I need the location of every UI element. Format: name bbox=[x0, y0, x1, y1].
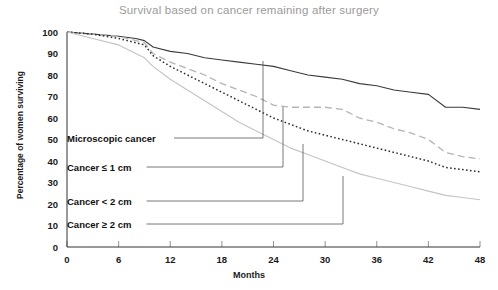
x-tick-label: 0 bbox=[64, 254, 69, 265]
series-annotation-label: Cancer ≥ 2 cm bbox=[67, 219, 131, 230]
annotation-leader-line bbox=[147, 107, 284, 167]
y-tick-label: 50 bbox=[47, 134, 58, 145]
chart-container: Survival based on cancer remaining after… bbox=[0, 0, 498, 290]
series-annotation-label: Cancer < 2 cm bbox=[67, 196, 132, 207]
annotation-group: Microscopic cancerCancer ≤ 1 cmCancer < … bbox=[67, 61, 343, 230]
y-tick-label: 60 bbox=[47, 113, 58, 124]
y-tick-label: 0 bbox=[53, 242, 58, 253]
x-tick-label: 18 bbox=[217, 254, 228, 265]
annotation-leader-line bbox=[147, 176, 344, 224]
x-tick-label: 6 bbox=[116, 254, 121, 265]
y-tick-label: 80 bbox=[47, 70, 58, 81]
x-tick-label: 12 bbox=[165, 254, 176, 265]
y-tick-label: 100 bbox=[42, 27, 58, 38]
series-line bbox=[67, 32, 480, 172]
x-tick-label: 36 bbox=[371, 254, 382, 265]
y-tick-label: 30 bbox=[47, 177, 58, 188]
survival-plot: 0102030405060708090100 0612182430364248 … bbox=[0, 0, 498, 290]
x-tick-group: 0612182430364248 bbox=[64, 241, 485, 265]
annotation-leader-line bbox=[147, 144, 304, 201]
series-line bbox=[67, 32, 480, 109]
y-tick-label: 10 bbox=[47, 220, 58, 231]
annotation-leader-line bbox=[174, 61, 263, 138]
y-tick-label: 40 bbox=[47, 156, 58, 167]
x-tick-label: 30 bbox=[320, 254, 331, 265]
series-annotation-label: Microscopic cancer bbox=[67, 133, 156, 144]
series-annotation-label: Cancer ≤ 1 cm bbox=[67, 162, 131, 173]
y-tick-label: 90 bbox=[47, 48, 58, 59]
x-tick-label: 24 bbox=[268, 254, 279, 265]
x-tick-label: 48 bbox=[475, 254, 486, 265]
y-tick-label: 20 bbox=[47, 199, 58, 210]
y-tick-group: 0102030405060708090100 bbox=[42, 27, 58, 253]
series-line bbox=[67, 32, 480, 200]
y-tick-label: 70 bbox=[47, 91, 58, 102]
series-group bbox=[67, 32, 480, 200]
x-tick-label: 42 bbox=[423, 254, 434, 265]
